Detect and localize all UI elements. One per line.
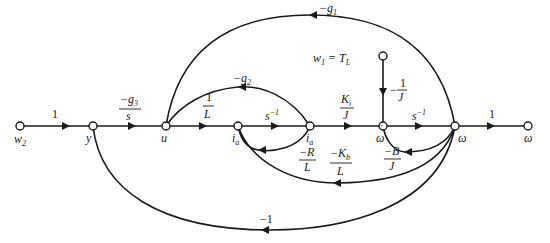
label-w2: w2 (14, 132, 26, 148)
arrow-icon (415, 122, 423, 130)
gain-Kb-num: −Kb (330, 146, 350, 162)
label-y: y (85, 131, 92, 145)
gain-minus-one: −1 (260, 212, 273, 226)
node-omega-out (524, 122, 532, 130)
node-omega (451, 122, 459, 130)
arrow-icon (128, 122, 136, 130)
gain-1-out: 1 (489, 107, 495, 121)
gain-1-in: 1 (52, 107, 58, 121)
label-omega: ω (458, 131, 466, 145)
node-y (89, 122, 97, 130)
gain-sinv-2: s−1 (412, 108, 426, 123)
arrow-icon (333, 179, 341, 187)
node-w1 (379, 52, 387, 60)
gain-R-den: L (303, 160, 311, 174)
node-u (162, 122, 170, 130)
gain-g1: −g1 (319, 1, 337, 17)
gain-Ki-den: J (343, 108, 349, 122)
node-ia (306, 122, 314, 130)
gain-g3-num: −g3 (120, 92, 138, 108)
arrow-icon (199, 122, 207, 130)
gain-Kb-den: L (336, 164, 344, 178)
gain-sinv-1: s−1 (265, 108, 279, 123)
arrow-icon (258, 146, 266, 154)
arrow-icon (487, 122, 495, 130)
gain-1L-num: 1 (206, 90, 212, 104)
node-w2 (16, 122, 24, 130)
arrow-icon (344, 122, 352, 130)
edge-minus-one (93, 126, 455, 230)
label-omega-dot-accent: ˙ (379, 122, 383, 136)
gain-1L-den: L (203, 107, 211, 121)
gain-Ki-num: Ki (340, 92, 351, 108)
gain-R-num: −R (299, 145, 315, 159)
gain-B-den: J (389, 159, 395, 173)
arrow-icon (271, 122, 279, 130)
gain-B-num: −B (384, 144, 400, 158)
arrow-icon (62, 122, 70, 130)
label-w1: w1 = TL (313, 51, 351, 67)
gain-g3-den: s (126, 109, 131, 123)
label-ia-dot-accent: ˙ (231, 122, 235, 136)
node-ia-dot (234, 122, 242, 130)
label-omega-out: ω (524, 131, 532, 145)
label-u: u (161, 131, 167, 145)
signal-flow-graph: w2 y u ia ˙ ia ω ˙ ω ω w1 = TL 1 −g3 s 1… (0, 0, 550, 243)
arrow-icon (379, 88, 387, 96)
arrow-icon (309, 11, 317, 19)
arrow-icon (261, 226, 269, 234)
arrow-icon (404, 148, 412, 156)
gain-g2: −g2 (233, 71, 251, 87)
gain-1J-den: J (398, 90, 404, 104)
gain-1J-num: 1 (400, 76, 406, 90)
gain-1J-sign: − (390, 83, 397, 97)
edge-g2 (166, 87, 310, 126)
